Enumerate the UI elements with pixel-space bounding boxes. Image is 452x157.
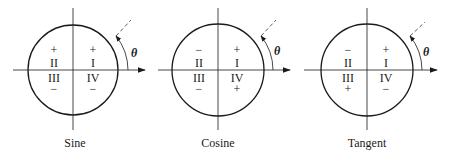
- theta-label: θ: [131, 46, 138, 60]
- sign-quadrant-IV: +: [234, 82, 241, 96]
- caption-tangent: Tangent: [348, 136, 387, 150]
- caption-sine: Sine: [64, 136, 85, 150]
- caption-cosine: Cosine: [201, 136, 234, 150]
- label-quadrant-II: II: [50, 56, 58, 70]
- sine-diagram: θ + + II I III IV − − Sine: [13, 8, 145, 150]
- sign-quadrant-III: −: [51, 82, 58, 96]
- sign-quadrant-II: −: [196, 43, 203, 57]
- trig-sign-diagram: θ + + II I III IV − − Sine θ − + II I II…: [0, 0, 452, 157]
- sign-quadrant-IV: −: [90, 82, 97, 96]
- sign-quadrant-I: +: [90, 43, 97, 57]
- label-quadrant-I: I: [384, 56, 388, 70]
- sign-quadrant-I: +: [234, 43, 241, 57]
- angle-arc-icon: [261, 36, 273, 70]
- terminal-ray-dashed: [261, 20, 276, 36]
- sign-quadrant-II: +: [51, 43, 58, 57]
- terminal-ray-dashed: [410, 22, 425, 36]
- sign-quadrant-II: −: [345, 43, 352, 57]
- theta-label: θ: [274, 44, 281, 58]
- label-quadrant-I: I: [91, 56, 95, 70]
- label-quadrant-II: II: [195, 56, 203, 70]
- sign-quadrant-III: +: [345, 82, 352, 96]
- sign-quadrant-III: −: [196, 82, 203, 96]
- label-quadrant-II: II: [344, 56, 352, 70]
- sign-quadrant-IV: −: [383, 82, 390, 96]
- terminal-ray-dashed: [116, 20, 131, 36]
- cosine-diagram: θ − + II I III IV − + Cosine: [158, 8, 290, 150]
- tangent-diagram: θ − + II I III IV + − Tangent: [304, 8, 437, 150]
- label-quadrant-I: I: [235, 56, 239, 70]
- theta-label: θ: [423, 45, 430, 59]
- angle-arc-icon: [410, 36, 422, 70]
- sign-quadrant-I: +: [383, 43, 390, 57]
